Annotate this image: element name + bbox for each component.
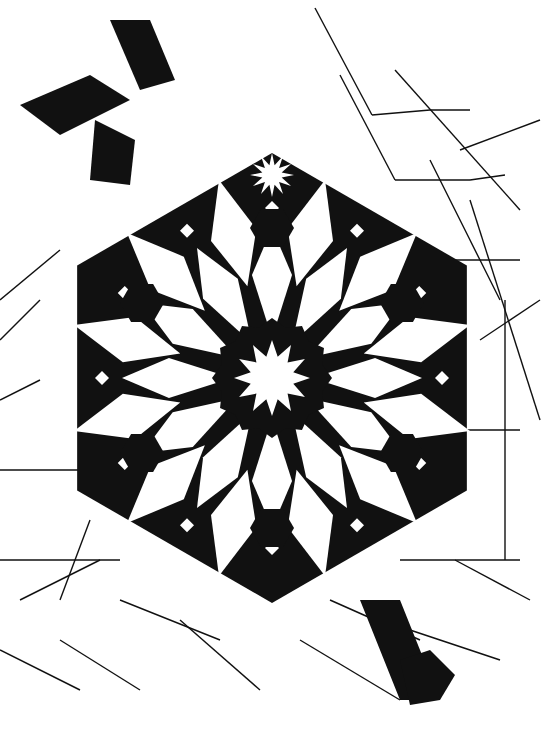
construction-line bbox=[315, 8, 372, 115]
construction-line bbox=[480, 300, 540, 340]
construction-line bbox=[340, 75, 395, 180]
construction-line bbox=[0, 380, 40, 400]
construction-line bbox=[460, 120, 540, 150]
construction-line bbox=[0, 300, 40, 340]
band-upper-left bbox=[20, 75, 130, 135]
construction-line bbox=[455, 560, 530, 600]
tail-hexagon bbox=[400, 650, 455, 705]
construction-line bbox=[470, 175, 505, 180]
star-pattern-figure bbox=[0, 0, 547, 731]
band-top bbox=[110, 20, 175, 90]
upper-left-hexagon bbox=[90, 120, 135, 185]
construction-line bbox=[395, 70, 520, 210]
construction-line bbox=[180, 620, 260, 690]
construction-line bbox=[0, 650, 80, 690]
construction-line bbox=[20, 560, 100, 600]
construction-line bbox=[372, 110, 430, 115]
construction-line bbox=[60, 640, 140, 690]
construction-line bbox=[120, 600, 220, 640]
construction-line bbox=[0, 250, 60, 300]
